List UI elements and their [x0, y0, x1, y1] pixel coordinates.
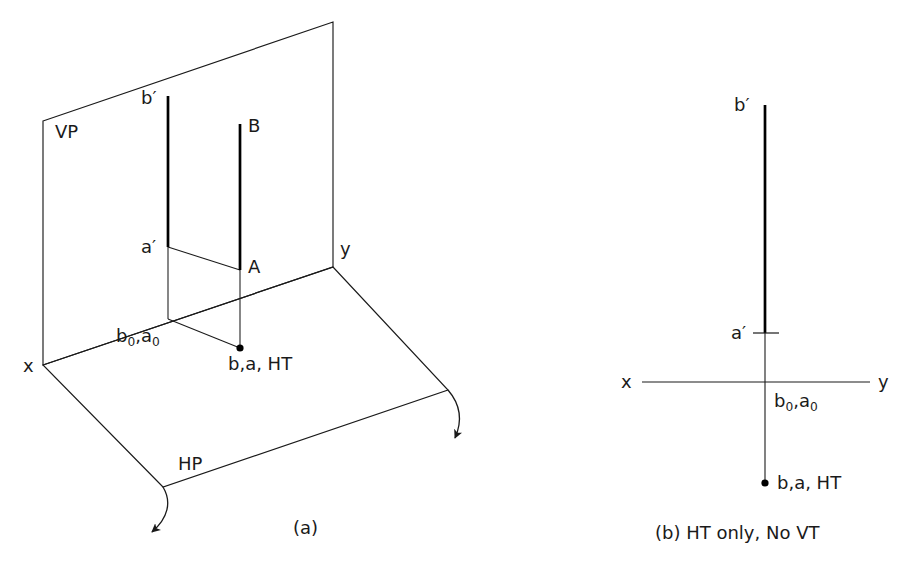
b0a0-base-a: b — [116, 325, 127, 346]
point-label-a-prime-panel-b: a′ — [731, 324, 746, 342]
point-label-ba-ht-panel-a: b,a, HT — [228, 355, 292, 373]
b0a0-sub2-a: 0 — [152, 335, 160, 349]
b0a0-mid-a: ,a — [135, 325, 152, 346]
b0a0-sub2-b: 0 — [810, 400, 818, 414]
panel-b-geometry — [642, 105, 870, 487]
point-label-b-prime-panel-a: b′ — [141, 89, 157, 107]
point-label-A-panel-a: A — [248, 258, 260, 276]
b0a0-base-b: b — [774, 390, 785, 411]
y-axis-label-panel-a: y — [340, 240, 351, 258]
point-label-ba-ht-panel-b: b,a, HT — [777, 474, 841, 492]
y-axis-label-panel-b: y — [878, 373, 889, 391]
point-label-b0a0-panel-b: b0,a0 — [774, 392, 818, 413]
figure-canvas: VP HP x y b′ a′ B A b0,a0 b,a, HT (a) b′… — [0, 0, 918, 578]
panel-a-caption: (a) — [293, 519, 318, 537]
x-axis-label-panel-b: x — [621, 373, 632, 391]
line-b0a0-to-ht — [168, 319, 240, 348]
hp-plane-outline — [43, 267, 448, 487]
point-label-b-prime-panel-b: b′ — [734, 96, 750, 114]
ht-point-panel-b — [761, 479, 768, 486]
ht-point-panel-a — [236, 344, 243, 351]
point-label-B-panel-a: B — [248, 117, 260, 135]
line-aprime-to-A — [168, 247, 240, 270]
x-axis-label-panel-a: x — [23, 357, 34, 375]
vp-plane-label: VP — [55, 123, 78, 141]
vp-plane-outline — [43, 22, 333, 365]
point-label-a-prime-panel-a: a′ — [141, 238, 156, 256]
point-label-b0a0-panel-a: b0,a0 — [116, 327, 160, 348]
hinge-arrow-left-icon — [152, 487, 168, 532]
hinge-arrow-right-icon — [448, 390, 459, 438]
b0a0-mid-b: ,a — [793, 390, 810, 411]
panel-a-geometry — [43, 22, 459, 532]
hp-plane-label: HP — [178, 455, 202, 473]
panel-b-caption: (b) HT only, No VT — [655, 524, 819, 542]
